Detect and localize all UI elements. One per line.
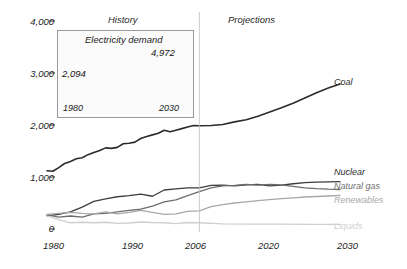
series-label-natural-gas: Natural gas	[334, 182, 380, 191]
series-line-liquids	[47, 216, 340, 224]
inset-title: Electricity demand	[85, 35, 163, 45]
y-tick-label-1000: 1,000	[14, 173, 54, 183]
y-tick-label-0: 0	[14, 224, 54, 234]
inset-x-tick-2030: 2030	[159, 104, 179, 113]
x-tick-label-1990: 1990	[122, 241, 143, 251]
projections-label: Projections	[228, 15, 275, 25]
series-label-coal: Coal	[334, 78, 353, 87]
x-tick-label-2030: 2030	[337, 241, 358, 251]
history-label: History	[108, 15, 138, 25]
x-tick-label-1980: 1980	[43, 241, 64, 251]
series-line-renewables	[47, 195, 340, 214]
y-tick-label-2000: 2,000	[14, 121, 54, 131]
series-label-liquids: Liquids	[334, 222, 363, 231]
x-tick-label-2020: 2020	[258, 241, 279, 251]
y-tick-label-4000: 4,000	[14, 17, 54, 27]
inset-value-end: 4,972	[151, 48, 175, 58]
inset-x-tick-1980: 1980	[63, 104, 83, 113]
series-label-renewables: Renewables	[334, 196, 384, 205]
x-tick-label-2006: 2006	[185, 241, 206, 251]
series-line-natural-gas	[47, 184, 340, 217]
series-label-nuclear: Nuclear	[334, 168, 365, 177]
inset-value-start: 2,094	[62, 69, 86, 79]
chart-container: 4,000 3,000 2,000 1,000 0 1980 1990 2006…	[0, 0, 407, 269]
y-tick-label-3000: 3,000	[14, 69, 54, 79]
